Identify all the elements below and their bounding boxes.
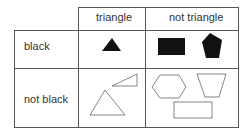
filled-pentagon-icon bbox=[202, 33, 222, 58]
outline-hexagon-icon bbox=[152, 75, 186, 98]
outline-triangle-icon bbox=[90, 90, 125, 115]
shapes-layer bbox=[0, 0, 251, 134]
outline-slanted-triangle-icon bbox=[112, 74, 137, 86]
outline-trapezoid-icon bbox=[197, 74, 226, 97]
outline-rectangle-icon bbox=[174, 102, 212, 118]
filled-rectangle-icon bbox=[158, 38, 185, 55]
filled-triangle-icon bbox=[102, 38, 121, 51]
